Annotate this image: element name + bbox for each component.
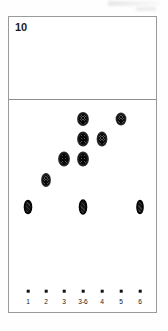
chromatogram-region: 1233-6456 (9, 100, 156, 312)
tlc-spot-body (78, 133, 88, 146)
lane-origin-dot (27, 290, 30, 293)
tlc-spot-body (78, 113, 88, 125)
tlc-spot-body (25, 201, 32, 214)
lane-label-3: 3 (62, 299, 66, 306)
tlc-spot (117, 114, 126, 125)
scan-artifact-smudge-secondary (136, 7, 156, 11)
tlc-spot-body (78, 153, 88, 166)
lane-origin-dot (120, 290, 123, 293)
tlc-spot-body (137, 201, 143, 214)
tlc-spot (80, 200, 87, 214)
lane-origin-dot (82, 290, 85, 293)
tlc-spot (78, 133, 88, 146)
lane-label-3-6: 3-6 (78, 299, 88, 306)
lane-label-2: 2 (44, 299, 48, 306)
tlc-spot (98, 133, 107, 146)
lane-origin-dot (63, 290, 66, 293)
tlc-spot-body (42, 174, 50, 186)
tlc-spot (78, 113, 88, 125)
figure-number-label: 10 (15, 22, 27, 33)
tlc-spot-body (98, 133, 107, 146)
tlc-spot (137, 201, 143, 214)
lane-origin-dot (139, 290, 142, 293)
lane-origin-dot (101, 290, 104, 293)
lane-label-1: 1 (26, 299, 30, 306)
tlc-spot-body (80, 200, 87, 214)
tlc-spot-body (59, 153, 69, 166)
tlc-spot-body (117, 114, 126, 125)
lane-label-4: 4 (100, 299, 104, 306)
tlc-spot (59, 153, 69, 166)
lane-label-5: 5 (119, 299, 123, 306)
figure-page: 10 1233-6456 (0, 0, 168, 331)
tlc-plate-frame: 10 1233-6456 (8, 16, 157, 313)
lane-origin-dot (45, 290, 48, 293)
tlc-spot (78, 153, 88, 166)
tlc-spot (25, 201, 32, 214)
scan-artifact-smudge (108, 1, 160, 6)
lane-label-6: 6 (138, 299, 142, 306)
tlc-spot (42, 174, 50, 186)
